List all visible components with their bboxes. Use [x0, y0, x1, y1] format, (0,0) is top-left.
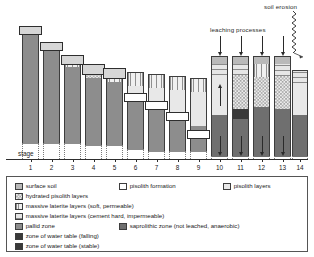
segment-surface-soil [275, 57, 290, 64]
profile-column-stage-2[interactable] [43, 44, 60, 143]
stage-tick [73, 159, 74, 162]
legend-label-water-table-stable: zone of water table (stable) [26, 243, 100, 249]
segment-laterite-hard [293, 71, 307, 83]
column-tail [169, 151, 186, 159]
profile-column-stage-4[interactable] [85, 66, 102, 145]
segment-laterite-soft [149, 75, 164, 88]
stage-number-9: 9 [193, 164, 205, 171]
pisolith-formation-cap [82, 64, 105, 75]
stage-number-13: 13 [277, 164, 289, 171]
drainage-arrow-down [283, 136, 284, 152]
segment-hydrated-pisolith [275, 76, 290, 109]
pisolith-formation-cap [61, 55, 84, 65]
legend-label-laterite-hard: massive laterite layers (cement hard, im… [26, 213, 165, 219]
segment-pisolith-layers [293, 83, 307, 115]
segment-pallid-zone [107, 82, 122, 146]
legend-swatch-laterite-soft [15, 203, 23, 211]
legend-item-pallid-zone: pallid zone [15, 223, 55, 231]
legend-swatch-water-table-fall [15, 233, 23, 241]
soil-erosion-squiggle-icon [286, 10, 306, 62]
stage-tick [52, 159, 53, 162]
leaching-arrow-down [220, 36, 221, 52]
legend-swatch-surface-soil [15, 183, 23, 191]
column-tail [106, 145, 123, 159]
legend-swatch-saprolithic-zone [119, 223, 127, 231]
legend-item-laterite-hard: massive laterite layers (cement hard, im… [15, 213, 164, 221]
stage-tick [220, 159, 221, 162]
stage-number-2: 2 [46, 164, 58, 171]
column-tail [43, 143, 60, 159]
soil-erosion-label: soil erosion [264, 3, 297, 10]
stage-tick [199, 159, 200, 162]
water-table-zone-falling [145, 101, 168, 110]
legend-swatch-laterite-hard [15, 213, 23, 221]
stage-number-4: 4 [88, 164, 100, 171]
segment-laterite-soft [128, 73, 143, 86]
profile-column-stage-7[interactable] [148, 74, 165, 151]
segment-pallid-zone [44, 45, 59, 144]
column-tail [148, 151, 165, 159]
segment-laterite-soft [191, 79, 206, 92]
legend-swatch-pisolith-formation [119, 183, 127, 191]
stage-number-12: 12 [256, 164, 268, 171]
segment-surface-soil [254, 57, 269, 64]
water-table-zone-falling [124, 93, 147, 102]
legend-item-pisolith-formation: pisolith formation [119, 183, 176, 191]
segment-surface-soil [233, 57, 248, 64]
legend-item-hydrated-pisolith: hydrated pisolith layers [15, 193, 88, 201]
pisolith-formation-cap [40, 42, 63, 51]
leaching-processes-label: leaching processes [210, 26, 266, 33]
water-table-zone-falling [187, 130, 210, 139]
legend-label-surface-soil: surface soil [26, 183, 57, 189]
profile-column-stage-5[interactable] [106, 70, 123, 145]
stage-tick [115, 159, 116, 162]
legend-label-water-table-fall: zone of water table (falling) [26, 233, 99, 239]
legend-label-pallid-zone: pallid zone [26, 223, 55, 229]
segment-pallid-zone [86, 78, 101, 146]
profile-column-stage-3[interactable] [64, 57, 81, 143]
stage-tick [136, 159, 137, 162]
stage-tick [31, 159, 32, 162]
legend-item-surface-soil: surface soil [15, 183, 57, 191]
stage-number-11: 11 [235, 164, 247, 171]
profile-column-stage-1[interactable] [22, 28, 39, 143]
profile-column-stage-6[interactable] [127, 72, 144, 149]
segment-pisolith-layers [191, 92, 206, 126]
stage-number-7: 7 [151, 164, 163, 171]
stage-tick [283, 159, 284, 162]
legend-label-pisolith-layers: pisolith layers [234, 183, 271, 189]
segment-water-table-stable [233, 109, 248, 119]
legend-swatch-water-table-stable [15, 243, 23, 251]
legend-item-water-table-stable: zone of water table (stable) [15, 243, 99, 251]
stage-number-5: 5 [109, 164, 121, 171]
stage-number-10: 10 [214, 164, 226, 171]
legend-item-water-table-fall: zone of water table (falling) [15, 233, 99, 241]
leaching-arrow-down [283, 36, 284, 52]
laterite-profile-diagram: leaching processes soil erosion stage 12… [0, 0, 314, 257]
stage-number-3: 3 [67, 164, 79, 171]
stage-number-8: 8 [172, 164, 184, 171]
segment-surface-soil [212, 57, 227, 64]
segment-laterite-hard [275, 64, 290, 76]
drainage-arrow-down [262, 136, 263, 152]
segment-pisolith-layers [170, 90, 185, 112]
water-table-zone-falling [166, 112, 189, 121]
legend-label-saprolithic-zone: saprolithic zone (not leached, anaerobic… [130, 223, 240, 229]
legend-item-pisolith-layers: pisolith layers [223, 183, 271, 191]
legend-label-laterite-soft: massive laterite layers (soft, permeable… [26, 203, 134, 209]
legend-item-laterite-soft: massive laterite layers (soft, permeable… [15, 203, 134, 211]
legend-label-pisolith-formation: pisolith formation [130, 183, 176, 189]
stage-tick [94, 159, 95, 162]
column-tail [190, 151, 207, 159]
legend-swatch-pisolith-layers [223, 183, 231, 191]
legend-item-saprolithic-zone: saprolithic zone (not leached, anaerobic… [119, 223, 239, 231]
column-tail [85, 145, 102, 159]
legend-swatch-pallid-zone [15, 223, 23, 231]
profile-column-stage-14[interactable] [292, 70, 308, 156]
drainage-arrow-down [241, 136, 242, 152]
segment-pallid-zone [65, 67, 80, 144]
column-tail [64, 143, 81, 159]
profile-column-stage-9[interactable] [190, 78, 207, 151]
stage-tick [262, 159, 263, 162]
drainage-arrow-down [220, 136, 221, 152]
